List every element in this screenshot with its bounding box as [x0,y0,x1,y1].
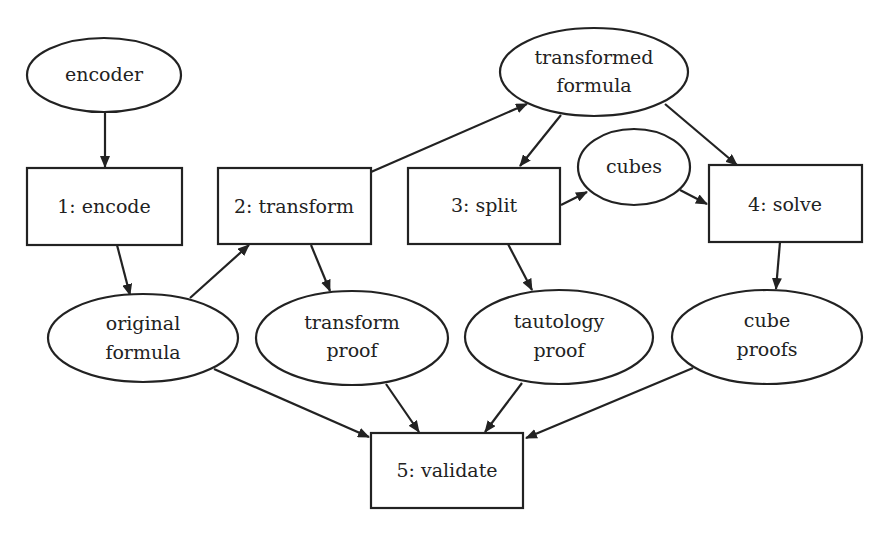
node-label: cubes [606,155,662,177]
node-label-line2: proof [326,339,379,361]
node-transform: 2: transform [218,168,371,244]
edge-solve-to-cube-proofs [776,242,780,289]
node-label-line2: formula [556,74,631,96]
node-solve: 4: solve [709,165,862,242]
edge-cubes-to-solve [680,190,707,204]
node-transformed-formula: transformed formula [500,28,688,116]
node-label: 5: validate [396,459,497,481]
node-transform-proof: transform proof [256,291,448,385]
edge-transform-to-transform-proof [311,245,330,291]
edge-transform-to-transformed-formula [371,104,527,172]
node-label-line2: formula [105,341,180,363]
node-label-line2: proofs [737,338,798,360]
edge-split-to-tautology-proof [508,244,532,290]
node-label: 2: transform [234,195,354,217]
node-label-line1: cube [744,309,790,331]
node-label-line1: original [106,312,180,334]
node-label-line1: transformed [534,46,653,68]
node-label-line1: tautology [514,310,605,332]
node-split: 3: split [408,168,560,244]
node-label-line2: proof [533,339,586,361]
node-original-formula: original formula [48,294,238,382]
node-label: 3: split [451,194,518,216]
node-encoder: encoder [27,38,181,112]
edge-transformed-formula-to-split [520,115,561,166]
edge-original-formula-to-transform [190,245,249,298]
node-tautology-proof: tautology proof [465,290,653,384]
node-label: encoder [65,63,144,85]
node-label: 4: solve [748,193,822,215]
node-encode: 1: encode [27,168,182,245]
edge-encode-to-original-formula [117,245,130,295]
node-validate: 5: validate [371,433,523,508]
flow-diagram: encoder 1: encode 2: transform 3: split … [0,0,891,539]
edge-transform-proof-to-validate [386,384,419,432]
edge-split-to-cubes [561,192,587,205]
node-label-line1: transform [304,311,400,333]
node-cube-proofs: cube proofs [672,290,862,384]
node-label: 1: encode [57,195,151,217]
edge-tautology-proof-to-validate [485,383,522,432]
node-cubes: cubes [578,129,690,205]
